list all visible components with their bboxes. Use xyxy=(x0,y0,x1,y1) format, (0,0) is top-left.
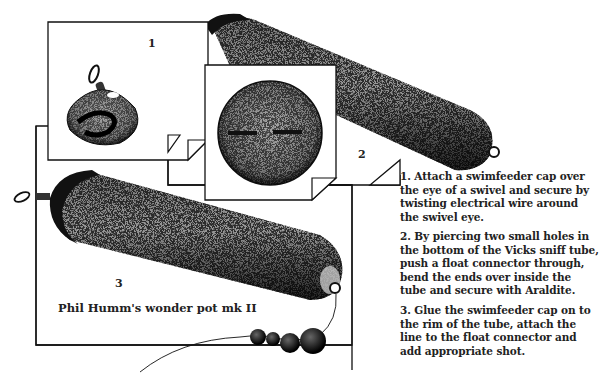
panel-1-frame xyxy=(48,22,208,160)
shot-1-icon xyxy=(250,329,266,345)
connector-slot-left-icon xyxy=(228,131,257,135)
figure-title: Phil Humm's wonder pot mk II xyxy=(58,301,257,315)
panel-1-number: 1 xyxy=(148,37,156,50)
instruction-step-1: 1. Attach a swimfeeder cap over the eye … xyxy=(400,170,589,224)
shot-3-icon xyxy=(280,333,300,353)
swivel-eye-icon xyxy=(13,190,31,204)
panel-2-number: 2 xyxy=(358,148,366,161)
shot-2-icon xyxy=(266,332,280,346)
instruction-step-2: 2. By piercing two small holes in the bo… xyxy=(400,230,599,298)
connector-slot-right-icon xyxy=(273,130,302,134)
tube-bottom-disc xyxy=(218,81,322,185)
instruction-step-3: 3. Glue the swimfeeder cap on to the rim… xyxy=(400,304,591,358)
shot-4-icon xyxy=(300,328,326,354)
panel-3-number: 3 xyxy=(115,277,123,290)
